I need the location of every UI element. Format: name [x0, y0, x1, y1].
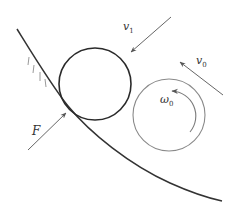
label-omega0: ω0 [160, 93, 173, 108]
curved-surface [17, 29, 222, 201]
diagram-svg: v1 v0 ω0 F [0, 0, 237, 215]
v1-arrow [131, 17, 171, 52]
label-force-f: F [31, 124, 41, 138]
omega0-rotation-arrow [172, 91, 196, 132]
contact-ball [59, 48, 131, 120]
label-v1: v1 [123, 20, 134, 35]
label-v0: v0 [196, 54, 207, 69]
incoming-ball [133, 79, 205, 151]
diagram-canvas: v1 v0 ω0 F [0, 0, 237, 215]
